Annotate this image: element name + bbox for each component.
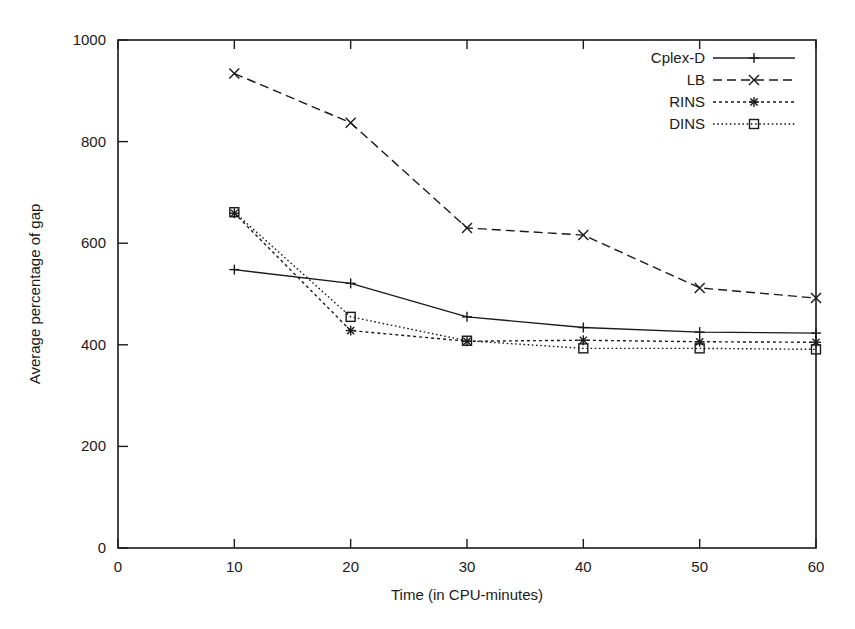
y-axis-tick-label: 0: [98, 539, 106, 556]
chart-figure: 020040060080010000102030405060Time (in C…: [0, 0, 855, 629]
series-line-rins: [234, 213, 816, 342]
plot-frame: [118, 40, 816, 548]
x-axis-tick-label: 50: [691, 558, 708, 575]
y-axis-tick-label: 200: [81, 437, 106, 454]
x-axis-tick-label: 10: [226, 558, 243, 575]
x-axis-tick-label: 30: [459, 558, 476, 575]
chart-canvas: 020040060080010000102030405060Time (in C…: [0, 0, 855, 629]
legend-label-cplex-d: Cplex-D: [651, 49, 705, 66]
x-axis-tick-label: 0: [114, 558, 122, 575]
series-line-cplex-d: [234, 270, 816, 334]
series-cplex-d: [229, 265, 821, 339]
y-axis-tick-label: 800: [81, 133, 106, 150]
legend-label-dins: DINS: [669, 115, 705, 132]
x-axis-title: Time (in CPU-minutes): [391, 586, 543, 603]
y-axis-tick-label: 400: [81, 336, 106, 353]
y-axis-title: Average percentage of gap: [26, 204, 43, 385]
x-axis-tick-label: 60: [808, 558, 825, 575]
data-series: [229, 69, 821, 354]
x-axis-tick-label: 40: [575, 558, 592, 575]
series-line-lb: [234, 74, 816, 299]
y-axis-tick-label: 1000: [73, 31, 106, 48]
series-lb: [229, 69, 821, 304]
legend-label-rins: RINS: [669, 93, 705, 110]
y-axis-tick-label: 600: [81, 234, 106, 251]
x-axis-tick-label: 20: [342, 558, 359, 575]
chart-legend: Cplex-DLBRINSDINS: [651, 49, 795, 132]
series-line-dins: [234, 212, 816, 349]
legend-label-lb: LB: [687, 71, 705, 88]
series-rins: [229, 208, 821, 347]
